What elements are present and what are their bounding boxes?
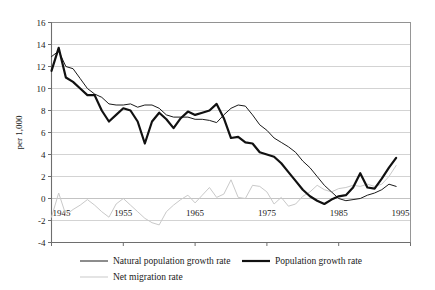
y-tick-label: 2: [41, 172, 46, 182]
y-tick-label: 8: [41, 106, 46, 116]
x-axis-ticks: 194519551965197519851995: [52, 208, 411, 247]
y-tick-label: -2: [38, 216, 46, 226]
chart-figure: -4-20246810121416 1945195519651975198519…: [0, 0, 435, 290]
legend-label: Natural population growth rate: [113, 256, 230, 266]
y-tick-label: 12: [37, 62, 46, 72]
x-tick-label: 1965: [186, 208, 205, 218]
legend-label: Net migration rate: [113, 272, 183, 282]
y-axis-title: per 1,000: [14, 115, 24, 149]
series-line: [52, 51, 397, 201]
chart-legend: Natural population growth ratePopulation…: [80, 256, 362, 282]
gridlines: [52, 23, 411, 221]
x-tick-label: 1995: [392, 208, 411, 218]
y-tick-label: 6: [41, 128, 46, 138]
series-line: [52, 48, 397, 204]
y-tick-label: 10: [37, 84, 47, 94]
x-tick-label: 1975: [258, 208, 277, 218]
x-tick-label: 1955: [114, 208, 133, 218]
x-tick-label: 1985: [330, 208, 349, 218]
y-tick-label: -4: [38, 238, 46, 248]
y-axis-ticks: -4-20246810121416: [37, 18, 52, 248]
x-tick-label: 1945: [53, 208, 72, 218]
y-tick-label: 0: [41, 194, 46, 204]
line-chart: -4-20246810121416 1945195519651975198519…: [0, 0, 435, 290]
legend-label: Population growth rate: [275, 256, 362, 266]
y-tick-label: 14: [37, 40, 47, 50]
y-tick-label: 4: [41, 150, 46, 160]
y-axis-label: per 1,000: [14, 115, 24, 149]
y-tick-label: 16: [37, 18, 47, 28]
